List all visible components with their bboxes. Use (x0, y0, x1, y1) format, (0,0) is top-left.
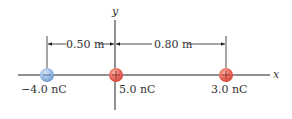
dimension-label-2: 0.80 m (154, 38, 193, 51)
charge-positive-right (219, 68, 233, 82)
dimension-0-80m: 0.80 m (116, 38, 225, 51)
dimension-0-50m: 0.50 m (48, 38, 114, 51)
charge-diagram: x y 0.50 m 0.80 m −4.0 nC 5.0 nC 3.0 nC (0, 0, 292, 119)
charge-positive-origin (109, 68, 123, 82)
dimension-label-1: 0.50 m (66, 38, 105, 51)
charge-label-3: 3.0 nC (211, 83, 248, 96)
x-axis-label: x (273, 68, 280, 81)
charge-label-1: −4.0 nC (21, 83, 67, 96)
charge-negative (40, 68, 54, 82)
y-axis-label: y (111, 5, 119, 18)
charge-label-2: 5.0 nC (119, 83, 156, 96)
